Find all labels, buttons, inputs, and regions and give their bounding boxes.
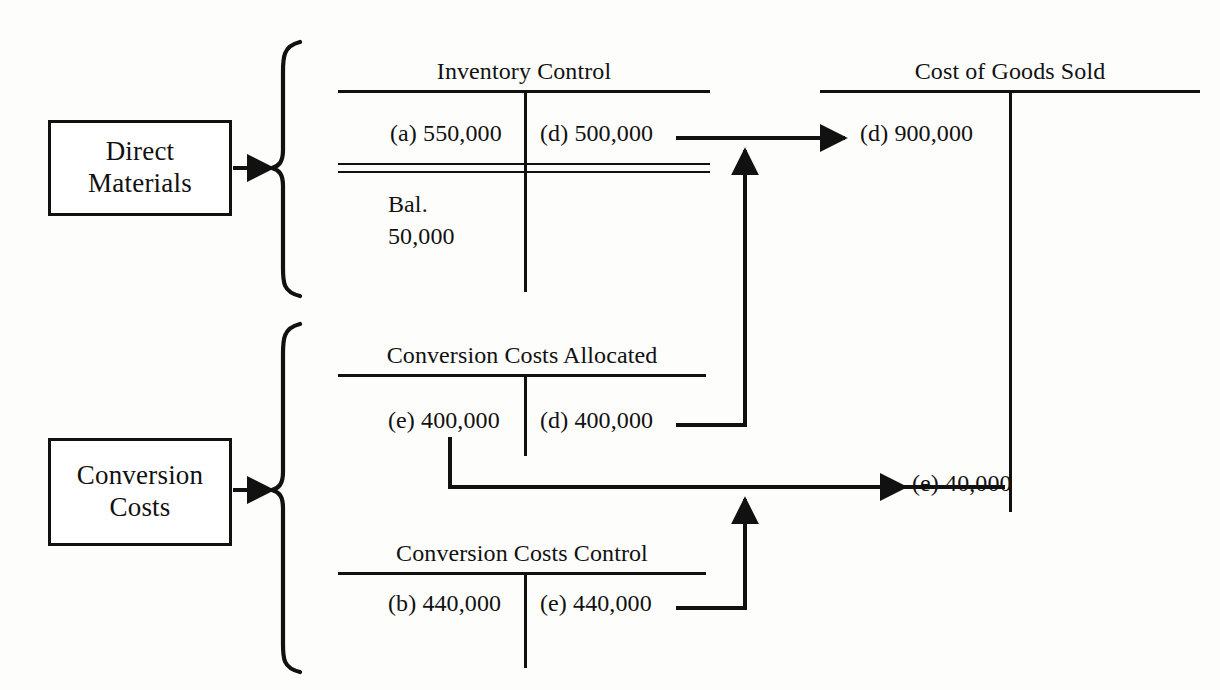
source-box-direct-materials[interactable]: Direct Materials xyxy=(48,120,232,216)
source-box-conversion-costs[interactable]: Conversion Costs xyxy=(48,438,232,546)
t-stem-cost-of-goods-sold xyxy=(1009,90,1012,512)
balance-value-inventory-control: 50,000 xyxy=(388,222,455,251)
brace-conversion-costs xyxy=(272,324,300,672)
conversion-costs-line1: Conversion xyxy=(77,460,204,492)
connector-cc-allocated-to-cogs xyxy=(676,150,745,425)
amount-conversion-costs-control-credit: (e) 440,000 xyxy=(540,590,652,617)
t-stem-conversion-costs-control xyxy=(524,572,527,668)
amount-cost-of-goods-sold-debit-e: (e) 40,000 xyxy=(912,470,1012,497)
amount-inventory-control-credit: (d) 500,000 xyxy=(540,120,653,147)
amount-conversion-costs-allocated-debit: (e) 400,000 xyxy=(388,407,500,434)
double-rule-top-inventory-control xyxy=(338,163,710,165)
brace-direct-materials xyxy=(272,42,300,296)
amount-cost-of-goods-sold-debit-d: (d) 900,000 xyxy=(860,120,973,147)
direct-materials-line1: Direct xyxy=(88,136,192,168)
conversion-costs-line2: Costs xyxy=(77,492,204,524)
t-rule-conversion-costs-control xyxy=(338,572,706,575)
amount-conversion-costs-allocated-credit: (d) 400,000 xyxy=(540,407,653,434)
balance-label-inventory-control: Bal. xyxy=(388,190,428,219)
double-rule-bottom-inventory-control xyxy=(338,171,710,173)
account-title-conversion-costs-control: Conversion Costs Control xyxy=(338,540,706,567)
t-rule-conversion-costs-allocated xyxy=(338,374,706,377)
amount-conversion-costs-control-debit: (b) 440,000 xyxy=(388,590,501,617)
account-title-cost-of-goods-sold: Cost of Goods Sold xyxy=(820,58,1200,85)
t-stem-conversion-costs-allocated xyxy=(524,374,527,456)
direct-materials-line2: Materials xyxy=(88,168,192,200)
t-stem-inventory-control xyxy=(524,90,527,292)
amount-inventory-control-debit: (a) 550,000 xyxy=(390,120,502,147)
diagram-canvas: Direct Materials Conversion Costs Invent… xyxy=(0,0,1220,690)
account-title-conversion-costs-allocated: Conversion Costs Allocated xyxy=(338,342,706,369)
account-title-inventory-control: Inventory Control xyxy=(338,58,710,85)
